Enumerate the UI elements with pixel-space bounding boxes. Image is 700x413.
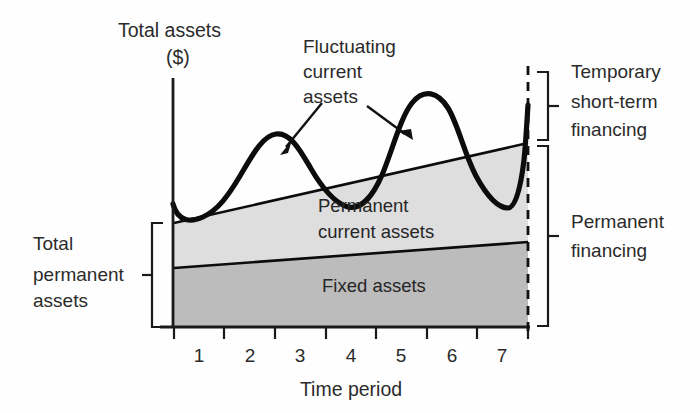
permanent-current-assets-label-line2: current assets <box>318 221 434 242</box>
total-permanent-assets-label-line1: Total <box>33 233 73 254</box>
x-axis-tick-labels: 1 2 3 4 5 6 7 <box>194 345 508 366</box>
x-axis-title: Time period <box>300 378 402 400</box>
temporary-financing-label-line2: short-term <box>571 91 658 112</box>
total-permanent-assets-bracket <box>152 223 163 327</box>
fluctuating-label-line3: assets <box>303 86 358 107</box>
x-tick-label-6: 6 <box>447 345 458 366</box>
y-axis-title-line2: ($) <box>166 46 190 68</box>
temporary-financing-bracket <box>537 72 548 140</box>
permanent-financing-label-line2: financing <box>571 240 647 261</box>
asset-financing-chart: Total assets ($) Fluctuating current ass… <box>0 0 700 413</box>
fluctuating-label-line2: current <box>303 61 363 82</box>
callout-arrow-left <box>280 103 322 155</box>
x-tick-label-3: 3 <box>295 345 306 366</box>
diagram-canvas: Total assets ($) Fluctuating current ass… <box>0 0 700 413</box>
y-axis-title-line1: Total assets <box>118 19 221 41</box>
permanent-financing-label-line1: Permanent <box>571 211 665 232</box>
x-tick-label-4: 4 <box>346 345 357 366</box>
fixed-assets-label: Fixed assets <box>322 275 426 296</box>
permanent-current-assets-label-line1: Permanent <box>318 195 409 216</box>
temporary-financing-label-line3: financing <box>571 119 647 140</box>
x-tick-label-5: 5 <box>396 345 407 366</box>
total-permanent-assets-label-line2: permanent <box>33 264 125 285</box>
temporary-financing-label-line1: Temporary <box>571 61 661 82</box>
fluctuating-label-line1: Fluctuating <box>303 36 396 57</box>
x-axis-ticks <box>174 327 528 339</box>
permanent-financing-bracket <box>537 146 548 326</box>
x-tick-label-2: 2 <box>245 345 256 366</box>
x-tick-label-1: 1 <box>194 345 205 366</box>
total-permanent-assets-label-line3: assets <box>33 290 88 311</box>
x-tick-label-7: 7 <box>497 345 508 366</box>
